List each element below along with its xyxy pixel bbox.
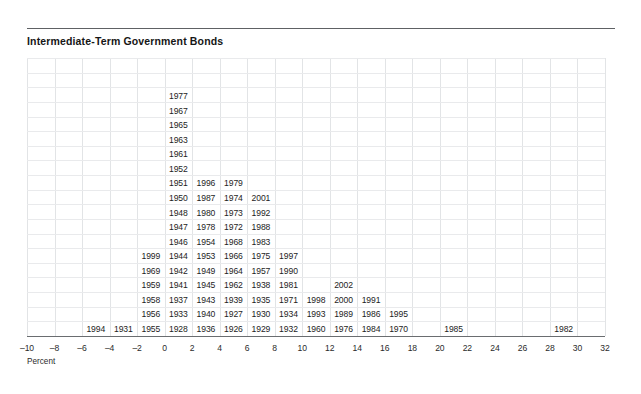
histogram-year-cell: 1991: [357, 295, 385, 306]
gridline-horizontal: [27, 263, 605, 264]
histogram-year-cell: 1936: [192, 324, 220, 335]
gridline-horizontal: [27, 175, 605, 176]
histogram-year-cell: 1996: [192, 178, 220, 189]
x-axis-caption: Percent: [27, 357, 55, 366]
histogram-year-cell: 1972: [220, 222, 248, 233]
histogram-year-cell: 1957: [247, 266, 275, 277]
histogram-year-cell: 1951: [165, 178, 193, 189]
gridline-horizontal: [27, 117, 605, 118]
histogram-year-cell: 1942: [165, 266, 193, 277]
gridline-horizontal: [27, 277, 605, 278]
histogram-year-cell: 1965: [165, 120, 193, 131]
gridline-vertical: [385, 58, 386, 336]
histogram-year-cell: 1950: [165, 193, 193, 204]
histogram-year-cell: 1968: [220, 237, 248, 248]
x-axis-tick-label: 2: [177, 343, 207, 353]
histogram-year-cell: 1929: [247, 324, 275, 335]
histogram-year-cell: 2001: [247, 193, 275, 204]
gridline-vertical: [110, 58, 111, 336]
histogram-year-cell: 1979: [220, 178, 248, 189]
gridline-horizontal: [27, 73, 605, 74]
gridline-horizontal: [27, 307, 605, 308]
x-axis-tick-label: 16: [370, 343, 400, 353]
histogram-year-cell: 1940: [192, 309, 220, 320]
histogram-plot-area: 1994193119551956195819591969199919281933…: [27, 58, 605, 336]
histogram-year-cell: 1969: [137, 266, 165, 277]
histogram-year-cell: 1933: [165, 309, 193, 320]
histogram-year-cell: 1990: [275, 266, 303, 277]
x-axis-line: [27, 336, 605, 337]
histogram-year-cell: 1947: [165, 222, 193, 233]
x-axis-tick-label: 4: [205, 343, 235, 353]
x-axis-tick-label: 12: [315, 343, 345, 353]
histogram-year-cell: 1960: [302, 324, 330, 335]
gridline-horizontal: [27, 131, 605, 132]
histogram-year-cell: 1931: [110, 324, 138, 335]
histogram-year-cell: 1999: [137, 251, 165, 262]
gridline-horizontal: [27, 58, 605, 59]
histogram-year-cell: 2000: [330, 295, 358, 306]
gridline-horizontal: [27, 87, 605, 88]
histogram-year-cell: 1975: [247, 251, 275, 262]
histogram-year-cell: 1978: [192, 222, 220, 233]
histogram-year-cell: 1959: [137, 280, 165, 291]
gridline-horizontal: [27, 146, 605, 147]
histogram-year-cell: 1992: [247, 208, 275, 219]
histogram-year-cell: 1973: [220, 208, 248, 219]
histogram-year-cell: 1943: [192, 295, 220, 306]
gridline-vertical: [440, 58, 441, 336]
histogram-year-cell: 1939: [220, 295, 248, 306]
histogram-year-cell: 1993: [302, 309, 330, 320]
histogram-year-cell: 1928: [165, 324, 193, 335]
histogram-year-cell: 1952: [165, 164, 193, 175]
histogram-year-cell: 1988: [247, 222, 275, 233]
gridline-vertical: [55, 58, 56, 336]
x-axis-tick-label: –10: [12, 343, 42, 353]
histogram-year-cell: 1962: [220, 280, 248, 291]
x-axis-tick-label: 32: [590, 343, 620, 353]
histogram-year-cell: 1934: [275, 309, 303, 320]
x-axis-tick-label: 20: [425, 343, 455, 353]
gridline-vertical: [412, 58, 413, 336]
gridline-vertical: [27, 58, 28, 336]
histogram-year-cell: 1974: [220, 193, 248, 204]
x-axis-tick-label: –2: [122, 343, 152, 353]
histogram-year-cell: 1964: [220, 266, 248, 277]
x-axis-tick-label: –6: [67, 343, 97, 353]
histogram-year-cell: 1980: [192, 208, 220, 219]
histogram-year-cell: 1927: [220, 309, 248, 320]
histogram-year-cell: 1970: [385, 324, 413, 335]
gridline-horizontal: [27, 204, 605, 205]
gridline-vertical: [522, 58, 523, 336]
histogram-year-cell: 1946: [165, 237, 193, 248]
gridline-horizontal: [27, 102, 605, 103]
histogram-year-cell: 1998: [302, 295, 330, 306]
histogram-year-cell: 1989: [330, 309, 358, 320]
gridline-horizontal: [27, 292, 605, 293]
histogram-year-cell: 1994: [82, 324, 110, 335]
x-axis-tick-label: –8: [40, 343, 70, 353]
x-axis-tick-label: –4: [95, 343, 125, 353]
page-title: Intermediate-Term Government Bonds: [27, 35, 223, 47]
gridline-horizontal: [27, 219, 605, 220]
histogram-year-cell: 1948: [165, 208, 193, 219]
histogram-year-cell: 1961: [165, 149, 193, 160]
gridline-horizontal: [27, 321, 605, 322]
histogram-year-cell: 1945: [192, 280, 220, 291]
histogram-year-cell: 1986: [357, 309, 385, 320]
gridline-vertical: [605, 58, 606, 336]
histogram-year-cell: 2002: [330, 280, 358, 291]
x-axis-tick-label: 6: [232, 343, 262, 353]
histogram-year-cell: 1953: [192, 251, 220, 262]
gridline-horizontal: [27, 234, 605, 235]
x-axis-tick-label: 8: [260, 343, 290, 353]
gridline-vertical: [467, 58, 468, 336]
histogram-year-cell: 1937: [165, 295, 193, 306]
histogram-year-cell: 1954: [192, 237, 220, 248]
x-axis-tick-label: 28: [535, 343, 565, 353]
histogram-year-cell: 1985: [440, 324, 468, 335]
histogram-year-cell: 1938: [247, 280, 275, 291]
x-axis-tick-label: 22: [452, 343, 482, 353]
histogram-year-cell: 1982: [550, 324, 578, 335]
gridline-horizontal: [27, 190, 605, 191]
